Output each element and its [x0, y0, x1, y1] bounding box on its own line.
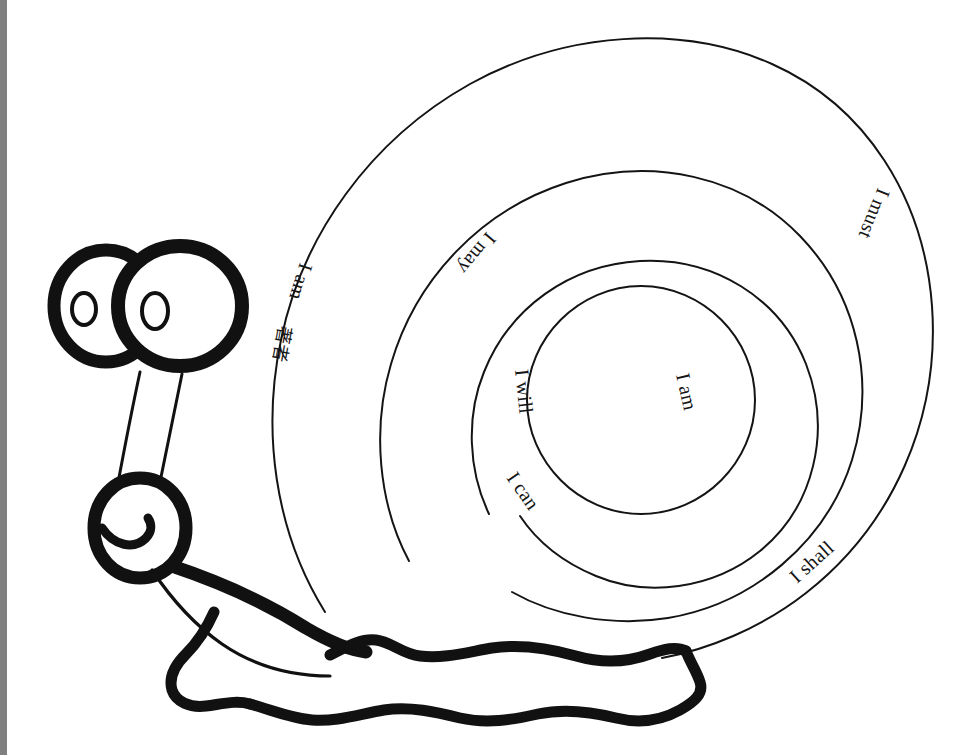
- label-i-may: I may: [453, 228, 501, 279]
- page-root: I am 著者 I must I shall I may I can I wil…: [0, 0, 964, 755]
- snail-body: [54, 246, 701, 721]
- shell-ring-outer: [272, 38, 932, 658]
- snail-head: [94, 478, 186, 578]
- right-tentacle: [160, 374, 182, 482]
- snail-foot-left-contour: [171, 612, 250, 706]
- shell-label-group: I am 著者 I must I shall I may I can I wil…: [269, 186, 895, 587]
- left-tentacle: [118, 372, 140, 483]
- label-i-will: I will: [511, 368, 538, 415]
- shell-ring-third: [472, 261, 818, 588]
- right-eye: [118, 246, 242, 366]
- snail-mouth: [102, 518, 151, 545]
- label-i-must: I must: [855, 186, 895, 243]
- left-pupil: [72, 293, 96, 325]
- snail-illustration: I am 著者 I must I shall I may I can I wil…: [0, 0, 964, 755]
- shell-ring-inner: [527, 286, 755, 514]
- label-i-am-inner: I am: [672, 371, 702, 412]
- label-cjk: 著者: [269, 324, 296, 363]
- label-i-shall: I shall: [785, 536, 838, 587]
- artboard: I am 著者 I must I shall I may I can I wil…: [0, 0, 964, 755]
- shell-ring-second: [380, 171, 862, 621]
- spiral-shell: I am 著者 I must I shall I may I can I wil…: [269, 38, 933, 658]
- snail-foot-top-ridge: [330, 640, 686, 661]
- label-i-am-outer: I am: [285, 261, 317, 303]
- label-i-can: I can: [503, 468, 544, 514]
